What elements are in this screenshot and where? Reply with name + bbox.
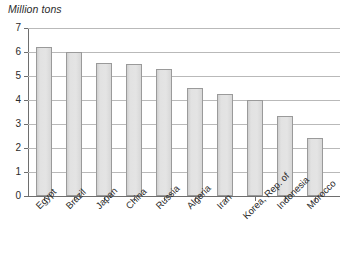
y-tick-mark xyxy=(24,196,28,197)
bar xyxy=(217,94,233,196)
y-tick-mark xyxy=(24,172,28,173)
y-tick-mark xyxy=(24,124,28,125)
gridline xyxy=(28,28,340,29)
y-tick-label: 2 xyxy=(0,143,21,153)
bar xyxy=(96,63,112,196)
chart-title: Million tons xyxy=(8,3,62,15)
bar xyxy=(187,88,203,196)
y-tick-label: 0 xyxy=(0,191,21,201)
y-tick-mark xyxy=(24,76,28,77)
bar xyxy=(156,69,172,196)
plot-area xyxy=(28,28,340,196)
y-tick-label: 5 xyxy=(0,71,21,81)
y-tick-mark xyxy=(24,52,28,53)
y-tick-label: 4 xyxy=(0,95,21,105)
bar xyxy=(36,47,52,196)
bar xyxy=(126,64,142,196)
y-tick-label: 1 xyxy=(0,167,21,177)
y-tick-label: 6 xyxy=(0,47,21,57)
y-tick-mark xyxy=(24,148,28,149)
bar-chart: Million tons 76543210 EgyptBrazilJapanCh… xyxy=(0,0,347,280)
bar xyxy=(247,100,263,196)
y-tick-label: 3 xyxy=(0,119,21,129)
y-tick-label: 7 xyxy=(0,23,21,33)
y-tick-mark xyxy=(24,28,28,29)
y-tick-mark xyxy=(24,100,28,101)
bar xyxy=(66,52,82,196)
